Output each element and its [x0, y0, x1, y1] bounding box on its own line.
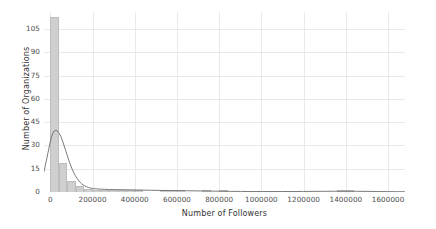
- histogram-bar: [177, 190, 185, 192]
- x-tick-label: 400000: [121, 196, 149, 203]
- gridline-horizontal-1: [44, 169, 405, 170]
- gridline-horizontal-6: [44, 52, 405, 53]
- y-axis-label: Number of Organizations: [22, 9, 31, 189]
- histogram-bar: [126, 190, 134, 192]
- gridline-horizontal-2: [44, 145, 405, 146]
- gridline-vertical-1: [93, 12, 94, 192]
- histogram-bar: [76, 186, 84, 192]
- histogram-bar: [101, 190, 109, 192]
- histogram-bar: [93, 190, 101, 192]
- plot-area: [44, 12, 405, 192]
- histogram-bar: [118, 190, 126, 192]
- gridline-vertical-4: [219, 12, 220, 192]
- histogram-bar: [67, 181, 75, 192]
- x-tick-label: 600000: [163, 196, 191, 203]
- gridline-vertical-2: [135, 12, 136, 192]
- gridline-vertical-5: [261, 12, 262, 192]
- histogram-bar: [135, 190, 143, 192]
- gridline-horizontal-3: [44, 122, 405, 123]
- gridline-horizontal-4: [44, 99, 405, 100]
- x-tick-label: 1200000: [287, 196, 320, 203]
- x-axis-label: Number of Followers: [44, 209, 405, 218]
- histogram-figure: 0153045607590105 02000004000006000008000…: [0, 0, 436, 229]
- histogram-bar: [337, 190, 345, 192]
- x-tick-label: 200000: [79, 196, 107, 203]
- gridline-vertical-7: [346, 12, 347, 192]
- histogram-bar: [346, 190, 354, 192]
- gridline-vertical-3: [177, 12, 178, 192]
- histogram-bar: [84, 189, 92, 192]
- histogram-bar: [59, 163, 67, 192]
- histogram-bar: [160, 190, 168, 192]
- x-axis-ticks: 0200000400000600000800000100000012000001…: [44, 196, 405, 208]
- x-tick-label: 800000: [205, 196, 233, 203]
- y-tick-label: 0: [2, 188, 40, 195]
- gridline-vertical-8: [388, 12, 389, 192]
- x-tick-label: 1000000: [245, 196, 278, 203]
- x-tick-label: 0: [48, 196, 53, 203]
- histogram-bar: [109, 190, 117, 192]
- gridline-horizontal-7: [44, 29, 405, 30]
- histogram-bar: [202, 190, 210, 192]
- gridline-horizontal-5: [44, 76, 405, 77]
- histogram-bar: [50, 17, 58, 192]
- histogram-bar: [169, 190, 177, 192]
- histogram-bar: [219, 190, 227, 192]
- x-tick-label: 1600000: [372, 196, 405, 203]
- x-tick-label: 1400000: [330, 196, 363, 203]
- gridline-vertical-6: [304, 12, 305, 192]
- y-axis-ticks: 0153045607590105: [0, 12, 40, 192]
- kde-curve: [44, 12, 405, 192]
